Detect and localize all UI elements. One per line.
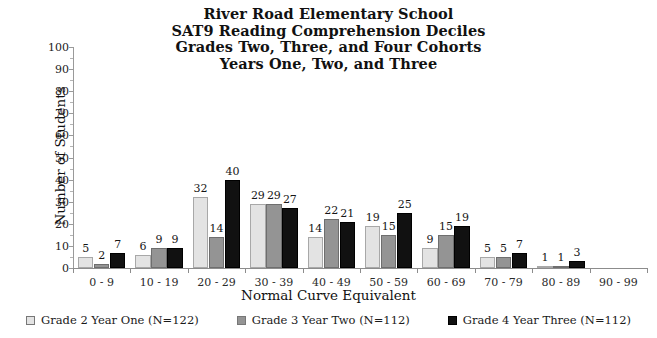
x-tick-3	[245, 268, 246, 273]
bar[interactable]	[454, 226, 470, 268]
chart-title-line-2: SAT9 Reading Comprehension Deciles	[0, 23, 657, 40]
bar[interactable]	[397, 213, 413, 268]
bar[interactable]	[135, 255, 151, 268]
bar-group-bars	[417, 47, 474, 268]
bar[interactable]	[381, 235, 397, 268]
bar-group: 191525	[360, 40, 417, 268]
bar-group-bars	[245, 47, 302, 268]
bar[interactable]	[512, 253, 528, 268]
bar[interactable]	[537, 266, 553, 268]
x-tick-1	[130, 268, 131, 273]
x-tick-end	[647, 268, 648, 273]
x-tick-9	[590, 268, 591, 273]
legend-label: Grade 4 Year Three (N=112)	[463, 313, 631, 327]
x-tick-2	[188, 268, 189, 273]
bar[interactable]	[365, 226, 381, 268]
x-tick-5	[360, 268, 361, 273]
bar-group: 91519	[417, 40, 474, 268]
bar-group: 142221	[303, 40, 360, 268]
y-tick-label-100: 100	[39, 41, 69, 54]
legend-swatch-icon	[26, 316, 35, 325]
bar[interactable]	[438, 235, 454, 268]
bar[interactable]	[266, 204, 282, 268]
bar-group-bars	[360, 47, 417, 268]
legend-label: Grade 3 Year Two (N=112)	[252, 313, 410, 327]
bar-group-bars	[475, 47, 532, 268]
chart-container: River Road Elementary School SAT9 Readin…	[0, 0, 657, 338]
bar[interactable]	[151, 248, 167, 268]
bar[interactable]	[496, 257, 512, 268]
legend-item[interactable]: Grade 3 Year Two (N=112)	[237, 313, 410, 327]
bar[interactable]	[110, 253, 126, 268]
bar-group: 292927	[245, 40, 302, 268]
bar-group-bars	[73, 47, 130, 268]
bar[interactable]	[480, 257, 496, 268]
bar[interactable]	[340, 222, 356, 268]
bar-group-bars	[188, 47, 245, 268]
bar-group: 113	[532, 40, 589, 268]
x-tick-7	[475, 268, 476, 273]
y-tick-label-10: 10	[39, 239, 69, 252]
bar[interactable]	[282, 208, 298, 268]
bar-group: 557	[475, 40, 532, 268]
bar-group-bars	[303, 47, 360, 268]
y-tick-label-0: 0	[39, 262, 69, 275]
bar[interactable]	[250, 204, 266, 268]
bar[interactable]	[78, 257, 94, 268]
chart-legend: Grade 2 Year One (N=122)Grade 3 Year Two…	[0, 313, 657, 327]
bar[interactable]	[193, 197, 209, 268]
plot-area: 0102030405060708090100 Number of Student…	[73, 40, 647, 272]
bar[interactable]	[422, 248, 438, 268]
bar-group: 527	[73, 40, 130, 268]
x-tick-8	[532, 268, 533, 273]
legend-item[interactable]: Grade 2 Year One (N=122)	[26, 313, 199, 327]
bar-group-bars	[532, 47, 589, 268]
bar[interactable]	[569, 261, 585, 268]
bar-group: 321440	[188, 40, 245, 268]
bar-group: 699	[130, 40, 187, 268]
legend-item[interactable]: Grade 4 Year Three (N=112)	[448, 313, 631, 327]
x-tick-4	[303, 268, 304, 273]
bar[interactable]	[225, 180, 241, 268]
bar-group-bars	[590, 47, 647, 268]
y-axis-title: Number of Students	[52, 86, 68, 225]
x-axis-title: Normal Curve Equivalent	[0, 287, 657, 303]
bar[interactable]	[553, 266, 569, 268]
chart-title-line-1: River Road Elementary School	[0, 6, 657, 23]
y-tick-label-90: 90	[39, 63, 69, 76]
bar[interactable]	[167, 248, 183, 268]
bar[interactable]	[308, 237, 324, 268]
bar-group	[590, 40, 647, 268]
legend-label: Grade 2 Year One (N=122)	[41, 313, 199, 327]
bar[interactable]	[324, 219, 340, 268]
legend-swatch-icon	[237, 316, 246, 325]
x-tick-0	[73, 268, 74, 273]
x-tick-6	[417, 268, 418, 273]
legend-swatch-icon	[448, 316, 457, 325]
bar-group-bars	[130, 47, 187, 268]
bar[interactable]	[94, 264, 110, 268]
bar[interactable]	[209, 237, 225, 268]
